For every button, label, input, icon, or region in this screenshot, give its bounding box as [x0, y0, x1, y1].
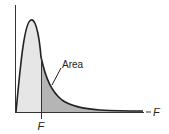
area-leader-line — [52, 68, 61, 85]
area-label: Area — [62, 59, 84, 70]
x-axis-label: F — [153, 106, 161, 118]
f-distribution-diagram: Area F F — [0, 0, 169, 134]
critical-value-label: F — [38, 120, 46, 132]
tail-area-fill — [41, 57, 143, 112]
